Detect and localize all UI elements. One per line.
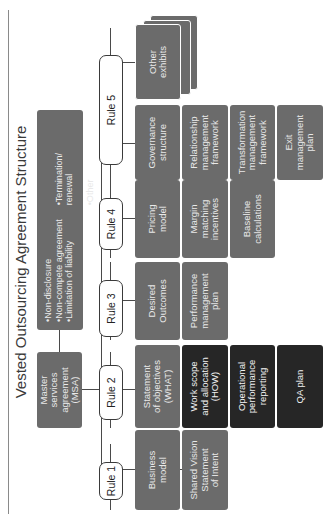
relationship-framework-box: Relationship management framework	[182, 105, 228, 180]
down-stub	[123, 389, 135, 390]
down-stub	[123, 218, 135, 219]
term-item: Non-compete agreement	[54, 219, 65, 322]
pricing-model-box: Pricing model	[135, 180, 180, 258]
down-stub	[123, 143, 135, 144]
rule-2-label: Rule 2	[99, 365, 123, 420]
msa-connector	[59, 330, 60, 352]
baseline-calculations-box: Baseline calculations	[230, 180, 275, 258]
performance-plan-box: Performance management plan	[182, 262, 228, 340]
top-rule-line	[8, 10, 9, 514]
rule-4-label: Rule 4	[99, 198, 123, 250]
term-item: Termination/ renewal	[54, 153, 75, 205]
down-stub	[123, 62, 135, 63]
down-stub	[123, 300, 135, 301]
rule-5-label: Rule 5	[99, 55, 123, 165]
msa-terms-col2: Termination/ renewal Other	[43, 153, 77, 205]
term-item: Other	[85, 153, 96, 205]
statement-of-objectives-box: Statement of objectives (WHAT)	[135, 345, 180, 428]
diagram-title: Vested Outsourcing Agreement Structure	[12, 0, 29, 524]
qa-plan-box: QA plan	[277, 345, 323, 428]
shared-vision-box: Shared Vision Statement of Intent	[182, 430, 228, 510]
diagram-canvas: Vested Outsourcing Agreement Structure M…	[0, 0, 323, 524]
work-scope-box: Work scope and allocation (HOW)	[182, 345, 228, 428]
desired-outcomes-box: Desired Outcomes	[135, 262, 180, 340]
transformation-framework-box: Transformation management framework	[230, 105, 275, 180]
margin-incentives-box: Margin matching incentives	[182, 180, 228, 258]
rule-1-label: Rule 1	[99, 462, 123, 500]
governance-structure-box: Governance structure	[135, 105, 180, 180]
business-model-box: Business model	[135, 430, 180, 510]
rule-3-label: Rule 3	[99, 280, 123, 337]
msa-terms-box: Non-disclosure Non-compete agreement Lim…	[37, 110, 83, 330]
term-item: Non-disclosure	[43, 219, 54, 322]
exit-plan-box: Exit management plan	[277, 105, 323, 180]
term-item: Limitation of liability	[64, 219, 75, 322]
other-exhibits-box: Other exhibits	[135, 24, 181, 100]
down-stub	[123, 469, 135, 470]
operational-reporting-box: Operational performance reporting	[230, 345, 275, 428]
msa-box: Master services agreement (MSA)	[37, 352, 82, 428]
msa-terms-col1: Non-disclosure Non-compete agreement Lim…	[43, 219, 77, 322]
